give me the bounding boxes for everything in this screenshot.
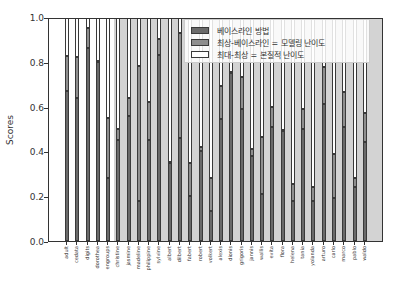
x-tick-label: albert [167,246,172,261]
segment-intrinsic-difficulty [168,18,172,163]
segment-intrinsic-difficulty [157,18,161,39]
x-tick-label: tania [300,246,305,259]
segment-intrinsic-difficulty [147,18,151,102]
bar-christine [116,18,120,241]
segment-modeling-difficulty [353,178,357,187]
x-tick-label: arturo [321,246,326,261]
x-tick-label: grigoris [239,246,244,265]
x-tick-mark [117,242,118,245]
x-tick-label: philippine [146,246,151,271]
segment-baseline [301,129,305,241]
segment-modeling-difficulty [301,109,305,129]
x-tick-label: christine [115,246,120,268]
segment-modeling-difficulty [270,107,274,127]
segment-baseline [219,119,223,241]
bar-jasmine [127,18,131,241]
segment-baseline [127,116,131,241]
segment-modeling-difficulty [127,98,131,116]
x-tick-label: yolanda [310,246,315,266]
segment-modeling-difficulty [65,56,69,91]
legend-label: 최상-베이스라인 = 모델링 난이도 [217,37,325,48]
segment-baseline [332,198,336,241]
segment-baseline [96,62,100,241]
x-tick-label: cedata [74,246,79,263]
segment-baseline [116,140,120,241]
segment-baseline [168,163,172,241]
y-tick-label: 1.0 [30,13,44,23]
segment-baseline [188,196,192,241]
x-tick-mark [302,242,303,245]
x-tick-mark [251,242,252,245]
legend-swatch-modeling [191,39,209,46]
legend-item-modeling-difficulty: 최상-베이스라인 = 모델링 난이도 [191,36,363,48]
x-tick-mark [220,242,221,245]
x-tick-mark [282,242,283,245]
segment-modeling-difficulty [116,129,120,140]
segment-baseline [199,151,203,241]
segment-modeling-difficulty [363,113,367,142]
x-tick-mark [312,242,313,245]
segment-modeling-difficulty [291,184,295,201]
segment-modeling-difficulty [332,154,336,199]
segment-modeling-difficulty [178,33,182,138]
x-tick-label: flora [280,246,285,257]
bar-digits [86,18,90,241]
y-tick-label: 0.4 [30,147,44,157]
segment-baseline [86,48,90,241]
segment-baseline [281,131,285,241]
segment-modeling-difficulty [219,86,223,118]
segment-baseline [157,55,161,241]
segment-baseline [342,127,346,241]
x-tick-label: wallis [259,246,264,260]
x-tick-label: adult [64,246,69,259]
bar-sylvine [157,18,161,241]
segment-intrinsic-difficulty [127,18,131,98]
x-tick-label: engroups [105,246,110,269]
segment-baseline [363,142,367,241]
x-tick-mark [138,242,139,245]
x-tick-mark [241,242,242,245]
y-tick-mark [44,242,48,243]
chart-figure: Scores 0.00.20.40.60.81.0 adultcedatadig… [0,0,397,284]
segment-baseline [270,127,274,241]
legend-label: 베이스라인 방법 [217,25,269,36]
x-tick-label: helena [290,246,295,263]
segment-modeling-difficulty [342,92,346,127]
x-tick-label: evita [269,246,274,258]
x-tick-label: jannis [249,246,254,261]
segment-modeling-difficulty [137,66,141,200]
x-tick-mark [261,242,262,245]
x-tick-mark [128,242,129,245]
x-tick-mark [210,242,211,245]
bar-madeline [137,18,141,241]
segment-modeling-difficulty [311,187,315,200]
x-tick-mark [76,242,77,245]
segment-baseline [353,187,357,241]
bar-dilbert [178,18,182,241]
x-tick-mark [271,242,272,245]
segment-baseline [229,73,233,241]
segment-intrinsic-difficulty [116,18,120,129]
x-tick-label: alexis [218,246,223,260]
segment-baseline [250,156,254,241]
segment-modeling-difficulty [260,137,264,194]
y-tick-label: 0.6 [30,103,44,113]
segment-modeling-difficulty [106,118,110,178]
segment-modeling-difficulty [157,39,161,55]
y-tick-label: 0.0 [30,237,44,247]
x-tick-label: sylvine [156,246,161,264]
legend-swatch-baseline [191,27,209,34]
y-axis-label: Scores [5,115,15,145]
x-tick-mark [97,242,98,245]
segment-baseline [65,91,69,241]
bar-albert [168,18,172,241]
segment-intrinsic-difficulty [96,18,100,62]
x-tick-mark [354,242,355,245]
x-tick-mark [66,242,67,245]
segment-baseline [147,140,151,241]
x-tick-label: carlo [331,246,336,258]
segment-intrinsic-difficulty [75,18,79,57]
x-tick-mark [343,242,344,245]
legend-swatch-intrinsic [191,51,209,58]
x-tick-mark [107,242,108,245]
